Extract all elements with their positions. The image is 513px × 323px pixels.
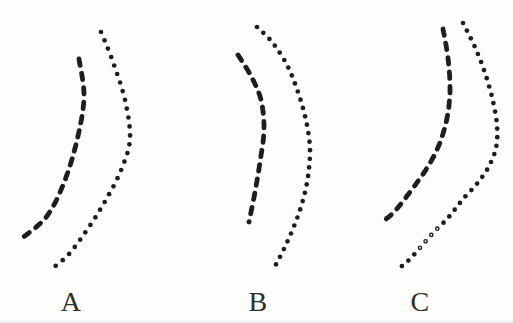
curves-canvas (0, 0, 513, 323)
panel-label-c: C (410, 288, 429, 316)
panel-label-b: B (248, 288, 267, 316)
panel-label-a: A (61, 288, 82, 316)
figure: A B C (0, 0, 513, 323)
